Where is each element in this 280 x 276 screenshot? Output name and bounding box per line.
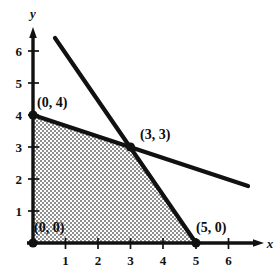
x-tick-label-4: 4	[160, 253, 167, 268]
x-tick-label-1: 1	[62, 253, 69, 268]
point-label-0-4: (0, 4)	[37, 95, 68, 111]
point-label-3-3: (3, 3)	[140, 127, 171, 143]
y-tick-label-6: 6	[16, 44, 23, 59]
y-tick-label-5: 5	[16, 76, 23, 91]
y-tick-label-1: 1	[16, 204, 23, 219]
y-tick-label-3: 3	[16, 140, 23, 155]
y-axis-arrowhead	[29, 27, 37, 38]
x-axis-arrowhead	[253, 239, 264, 247]
point-label-5-0: (5, 0)	[196, 220, 227, 236]
y-axis-label: y	[28, 6, 36, 21]
y-tick-label-2: 2	[16, 172, 23, 187]
x-axis-label: x	[266, 236, 274, 251]
x-tick-label-6: 6	[225, 253, 232, 268]
vertex-dot-0-0	[28, 238, 37, 247]
point-label-0-0: (0, 0)	[34, 220, 65, 236]
graph-figure: y x 1 2 3 4 5 6 1 2 3 4 5 6 (0, 4) (3, 3…	[0, 0, 280, 276]
y-tick-label-4: 4	[16, 108, 23, 123]
x-tick-label-5: 5	[193, 253, 200, 268]
x-tick-label-3: 3	[127, 253, 134, 268]
x-tick-label-2: 2	[95, 253, 102, 268]
coordinate-plane: y x 1 2 3 4 5 6 1 2 3 4 5 6 (0, 4) (3, 3…	[0, 0, 280, 276]
vertex-dot-3-3	[126, 142, 135, 151]
vertex-dot-5-0	[191, 238, 200, 247]
vertex-dot-0-4	[28, 110, 37, 119]
